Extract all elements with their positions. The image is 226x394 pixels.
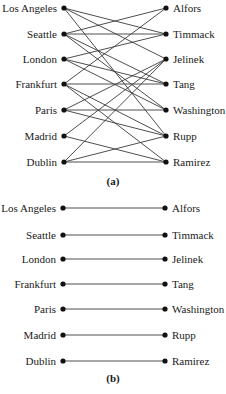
node-madrid bbox=[60, 332, 65, 337]
label-jelinek: Jelinek bbox=[173, 53, 205, 65]
label-alfors: Alfors bbox=[172, 202, 200, 214]
label-paris: Paris bbox=[34, 303, 56, 315]
node-washington bbox=[163, 107, 168, 112]
node-london bbox=[61, 56, 66, 61]
node-ramirez bbox=[162, 358, 167, 363]
label-madrid: Madrid bbox=[24, 329, 57, 341]
label-seattle: Seattle bbox=[26, 229, 56, 241]
node-london bbox=[60, 256, 65, 261]
node-madrid bbox=[61, 133, 66, 138]
label-frankfurt: Frankfurt bbox=[15, 78, 57, 90]
node-washington bbox=[162, 306, 167, 311]
node-frankfurt bbox=[60, 281, 65, 286]
label-los-angeles: Los Angeles bbox=[1, 202, 56, 214]
label-tang: Tang bbox=[173, 78, 195, 90]
label-rupp: Rupp bbox=[172, 329, 196, 341]
label-alfors: Alfors bbox=[173, 2, 201, 14]
node-tang bbox=[162, 281, 167, 286]
node-ramirez bbox=[163, 159, 168, 164]
node-dublin bbox=[60, 358, 65, 363]
node-timmack bbox=[163, 31, 168, 36]
node-rupp bbox=[163, 133, 168, 138]
edge-madrid-jelinek bbox=[64, 59, 166, 136]
label-rupp: Rupp bbox=[173, 130, 197, 142]
edge-london-tang bbox=[64, 59, 166, 84]
matching-graph-b: Los AngelesSeattleLondonFrankfurtParisMa… bbox=[1, 202, 224, 367]
bipartite-graph-a: Los AngelesSeattleLondonFrankfurtParisMa… bbox=[2, 2, 225, 168]
bipartite-matching-figure: Los AngelesSeattleLondonFrankfurtParisMa… bbox=[0, 0, 226, 394]
node-seattle bbox=[61, 31, 66, 36]
label-dublin: Dublin bbox=[25, 355, 56, 367]
node-seattle bbox=[60, 232, 65, 237]
node-jelinek bbox=[163, 56, 168, 61]
edge-los-angeles-jelinek bbox=[64, 8, 166, 59]
label-london: London bbox=[22, 253, 57, 265]
node-paris bbox=[61, 107, 66, 112]
node-paris bbox=[60, 306, 65, 311]
label-washington: Washington bbox=[173, 104, 226, 116]
edge-seattle-tang bbox=[64, 34, 166, 84]
node-rupp bbox=[162, 332, 167, 337]
label-frankfurt: Frankfurt bbox=[14, 278, 56, 290]
node-dublin bbox=[61, 159, 66, 164]
label-washington: Washington bbox=[172, 303, 225, 315]
label-dublin: Dublin bbox=[26, 156, 57, 168]
caption-a: (a) bbox=[107, 175, 120, 188]
node-jelinek bbox=[162, 256, 167, 261]
node-tang bbox=[163, 81, 168, 86]
label-madrid: Madrid bbox=[25, 130, 58, 142]
node-los-angeles bbox=[60, 205, 65, 210]
label-ramirez: Ramirez bbox=[172, 355, 209, 367]
edge-dublin-jelinek bbox=[64, 59, 166, 162]
node-timmack bbox=[162, 232, 167, 237]
label-los-angeles: Los Angeles bbox=[2, 2, 57, 14]
label-tang: Tang bbox=[172, 278, 194, 290]
edge-paris-rupp bbox=[64, 110, 166, 136]
node-alfors bbox=[162, 205, 167, 210]
node-los-angeles bbox=[61, 5, 66, 10]
label-ramirez: Ramirez bbox=[173, 156, 210, 168]
label-timmack: Timmack bbox=[172, 229, 214, 241]
node-alfors bbox=[163, 5, 168, 10]
label-seattle: Seattle bbox=[27, 28, 57, 40]
label-paris: Paris bbox=[35, 104, 57, 116]
edge-seattle-washington bbox=[64, 34, 166, 110]
node-frankfurt bbox=[61, 81, 66, 86]
label-london: London bbox=[23, 53, 58, 65]
label-timmack: Timmack bbox=[173, 28, 215, 40]
caption-b: (b) bbox=[106, 372, 120, 385]
label-jelinek: Jelinek bbox=[172, 253, 204, 265]
